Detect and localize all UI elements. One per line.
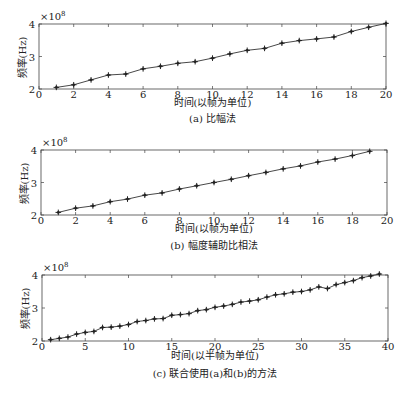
y-tick-label: 2 xyxy=(32,336,38,347)
data-point-marker xyxy=(316,284,322,290)
exponent-power: 8 xyxy=(63,136,67,144)
data-point-marker xyxy=(56,210,62,216)
data-point-marker xyxy=(192,59,198,65)
exponent-base: ×10 xyxy=(40,11,61,22)
data-point-marker xyxy=(331,34,337,40)
data-point-marker xyxy=(279,40,285,46)
data-point-marker xyxy=(134,319,140,325)
data-point-marker xyxy=(262,46,268,52)
data-point-marker xyxy=(100,325,106,331)
data-point-marker xyxy=(333,282,339,288)
data-point-marker xyxy=(227,51,233,57)
y-axis-label: 频率(Hz) xyxy=(14,27,29,87)
chart-1: 02468101214161820234 xyxy=(31,145,394,226)
y-tick-label: 3 xyxy=(32,303,38,314)
data-point-marker xyxy=(280,166,286,172)
data-point-marker xyxy=(140,66,146,72)
data-point-marker xyxy=(299,289,305,295)
data-point-marker xyxy=(65,334,71,340)
data-point-marker xyxy=(186,311,192,317)
data-point-marker xyxy=(238,299,244,305)
data-point-marker xyxy=(125,196,131,202)
data-point-marker xyxy=(160,316,166,322)
y-exponent-label: ×108 xyxy=(42,136,68,148)
y-exponent-label: ×108 xyxy=(43,261,69,273)
y-tick-label: 3 xyxy=(29,52,35,63)
y-tick-label: 4 xyxy=(29,19,35,30)
data-point-marker xyxy=(366,24,372,30)
exponent-base: ×10 xyxy=(43,262,64,273)
data-point-marker xyxy=(204,307,210,313)
data-point-marker xyxy=(314,36,320,42)
data-point-marker xyxy=(351,278,357,284)
x-axis-label: 时间(以帧为单位) xyxy=(12,94,402,109)
data-point-marker xyxy=(263,170,269,176)
y-exponent-label: ×108 xyxy=(40,10,66,22)
data-point-marker xyxy=(90,203,96,209)
data-point-marker xyxy=(244,48,250,54)
data-point-marker xyxy=(212,305,218,311)
data-point-marker xyxy=(255,297,261,303)
data-point-marker xyxy=(123,71,129,77)
data-point-marker xyxy=(281,291,287,297)
x-axis-label: 时间(以帧为单位) xyxy=(13,220,402,235)
data-point-marker xyxy=(211,180,217,186)
data-point-marker xyxy=(290,289,296,295)
data-point-marker xyxy=(230,302,236,308)
data-point-marker xyxy=(325,286,331,292)
chart-0: 02468101214161820234 xyxy=(29,19,393,100)
exponent-power: 8 xyxy=(61,10,65,18)
chart-2: 0510152025303540234 xyxy=(32,270,395,352)
data-point-marker xyxy=(159,190,165,196)
y-tick-label: 3 xyxy=(31,178,37,189)
data-point-marker xyxy=(210,55,216,61)
y-tick-label: 4 xyxy=(31,145,37,156)
figure-canvas: 0246810121416182023402468101214161820234… xyxy=(0,0,402,398)
data-point-marker xyxy=(126,322,132,328)
data-point-marker xyxy=(194,183,200,189)
data-point-marker xyxy=(117,323,123,329)
data-point-marker xyxy=(48,337,54,343)
exponent-base: ×10 xyxy=(42,137,63,148)
data-point-marker xyxy=(383,21,389,27)
y-axis-label: 频率(Hz) xyxy=(17,279,32,339)
data-point-marker xyxy=(107,199,113,205)
data-point-marker xyxy=(229,176,235,182)
data-point-marker xyxy=(359,275,365,281)
x-axis-label: 时间(以半帧为单位) xyxy=(14,347,402,362)
data-point-marker xyxy=(298,163,304,169)
data-point-marker xyxy=(82,330,88,336)
data-point-marker xyxy=(175,61,181,67)
figure-caption: (a) 比幅法 xyxy=(12,110,402,125)
data-point-marker xyxy=(158,63,164,69)
data-point-marker xyxy=(73,205,79,211)
data-point-marker xyxy=(342,280,348,286)
data-point-marker xyxy=(221,303,227,309)
data-point-marker xyxy=(57,336,63,342)
data-point-marker xyxy=(142,192,148,198)
data-point-marker xyxy=(195,308,201,314)
data-point-marker xyxy=(71,82,77,88)
data-point-marker xyxy=(349,29,355,35)
data-point-marker xyxy=(247,298,253,304)
data-point-marker xyxy=(307,287,313,293)
data-point-marker xyxy=(143,318,149,324)
y-tick-label: 4 xyxy=(32,270,38,281)
data-point-marker xyxy=(108,324,114,330)
data-point-marker xyxy=(246,173,252,179)
y-axis-label: 频率(Hz) xyxy=(16,153,31,213)
data-point-marker xyxy=(106,72,112,78)
data-point-marker xyxy=(273,292,279,298)
data-point-marker xyxy=(367,149,373,155)
data-point-marker xyxy=(178,312,184,318)
data-point-marker xyxy=(88,77,94,83)
figure-caption: (c) 联合使用(a)和(b)的方法 xyxy=(14,365,402,380)
exponent-power: 8 xyxy=(64,261,68,269)
data-point-marker xyxy=(91,329,97,335)
data-point-marker xyxy=(315,159,321,165)
data-point-marker xyxy=(377,271,383,277)
data-point-marker xyxy=(169,312,175,318)
data-point-marker xyxy=(152,316,158,322)
data-point-marker xyxy=(177,186,183,192)
data-point-marker xyxy=(368,273,374,279)
